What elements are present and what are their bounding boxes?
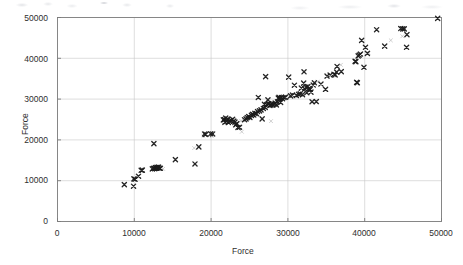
scatter-chart: 0 10000 20000 30000 40000 50000 0 10000 …	[0, 0, 463, 265]
plot-canvas	[0, 0, 463, 265]
y-tick-label-0: 0	[8, 217, 48, 226]
x-tick-label-10000: 10000	[114, 229, 154, 238]
x-tick-label-40000: 40000	[344, 229, 384, 238]
x-tick-label-0: 0	[37, 229, 77, 238]
y-tick-label-40000: 40000	[8, 55, 48, 64]
y-tick-label-10000: 10000	[8, 176, 48, 185]
y-tick-label-30000: 30000	[8, 95, 48, 104]
y-tick-label-20000: 20000	[8, 136, 48, 145]
x-axis-title: Force	[232, 246, 254, 256]
x-tick-label-50000: 50000	[421, 229, 461, 238]
y-axis-title: Force	[20, 113, 30, 135]
x-tick-label-20000: 20000	[191, 229, 231, 238]
x-tick-label-30000: 30000	[268, 229, 308, 238]
y-tick-label-50000: 50000	[8, 14, 48, 23]
